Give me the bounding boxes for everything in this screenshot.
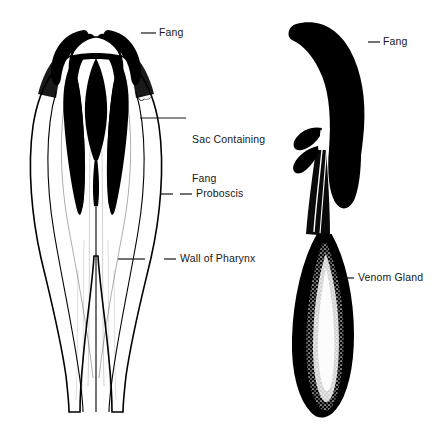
label-sac-containing-fang-line2: Fang — [192, 172, 265, 185]
label-venom-gland: Venom Gland — [358, 271, 423, 284]
label-fang-left: Fang — [159, 26, 184, 39]
anatomical-figure: Fang Sac Containing Fang Proboscis Wall … — [0, 0, 445, 429]
label-proboscis: Proboscis — [196, 187, 243, 200]
figure-illustration — [0, 0, 445, 429]
label-sac-containing-fang-line1: Sac Containing — [192, 133, 265, 146]
label-fang-right: Fang — [383, 35, 408, 48]
label-wall-of-pharynx: Wall of Pharynx — [180, 252, 255, 265]
